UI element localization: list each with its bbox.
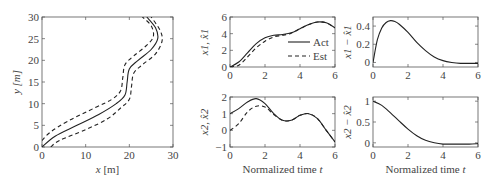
x-tick-label: 0	[370, 149, 376, 161]
chart-trajectory: 0102030051015202530x [m]y [m]	[10, 11, 179, 175]
y-tick-label: 10	[28, 98, 40, 110]
y-tick-label: 0	[365, 137, 371, 149]
chart-x2: 0246−1012Normalized time tx2, x̂2	[198, 91, 338, 175]
y-tick-label: 4	[222, 28, 228, 40]
series-error	[373, 21, 478, 64]
series-error	[373, 101, 478, 144]
series-left-bound	[42, 17, 154, 141]
y-tick-label: 0	[222, 124, 228, 136]
chart-x2-err: 024600.51Normalized time tx2 − x̂2	[341, 95, 481, 175]
figure: 0102030051015202530x [m]y [m]02460246x1,…	[0, 0, 495, 180]
y-tick-label: 0	[34, 141, 40, 153]
y-axis-label: x2, x̂2	[198, 108, 210, 136]
plot-frame	[230, 97, 335, 147]
x-tick-label: 10	[80, 149, 92, 161]
y-tick-label: 0.4	[356, 20, 370, 32]
x-tick-label: 4	[297, 149, 303, 161]
x-tick-label: 20	[124, 149, 136, 161]
x-tick-label: 4	[440, 69, 446, 81]
series-right-bound	[51, 17, 163, 147]
y-tick-label: 2	[222, 91, 228, 103]
y-axis-label: x1, x̂1	[198, 29, 210, 56]
plot-frame	[42, 17, 173, 147]
series-center	[42, 17, 158, 147]
x-axis-label: Normalized time t	[385, 163, 466, 175]
chart-x1: 02460246x1, x̂1ActEst	[198, 11, 338, 81]
x-axis-label: Normalized time t	[242, 163, 323, 175]
plot-frame	[373, 17, 478, 67]
x-tick-label: 0	[370, 69, 376, 81]
x-tick-label: 4	[440, 149, 446, 161]
y-tick-label: 1	[365, 95, 371, 107]
x-tick-label: 4	[297, 69, 303, 81]
y-tick-label: −1	[215, 141, 227, 153]
plot-frame	[373, 97, 478, 147]
y-tick-label: 30	[28, 11, 40, 23]
y-tick-label: 0.5	[356, 116, 370, 128]
y-tick-label: 2	[222, 44, 228, 56]
x-tick-label: 2	[405, 69, 411, 81]
x-tick-label: 6	[475, 149, 481, 161]
y-tick-label: 5	[34, 119, 40, 131]
y-tick-label: 6	[222, 11, 228, 23]
y-axis-label: x2 − x̂2	[341, 105, 353, 140]
x-tick-label: 0	[39, 149, 45, 161]
legend: ActEst	[288, 36, 329, 62]
y-tick-label: 20	[28, 54, 40, 66]
y-tick-label: 0	[222, 61, 228, 73]
legend-est: Est	[313, 50, 327, 62]
x-tick-label: 2	[262, 149, 268, 161]
x-tick-label: 6	[332, 149, 338, 161]
x-tick-label: 6	[332, 69, 338, 81]
y-tick-label: 1	[222, 108, 228, 120]
x-tick-label: 0	[227, 69, 233, 81]
x-axis-label: x [m]	[95, 163, 120, 175]
y-tick-label: 15	[28, 76, 40, 88]
y-axis-label: y [m]	[10, 70, 22, 95]
legend-act: Act	[313, 36, 329, 48]
x-tick-label: 30	[168, 149, 180, 161]
y-tick-label: 0.2	[356, 38, 370, 50]
x-tick-label: 0	[227, 149, 233, 161]
x-tick-label: 2	[405, 149, 411, 161]
chart-x1-err: 024600.20.4x1 − x̂1	[341, 17, 481, 81]
x-tick-label: 2	[262, 69, 268, 81]
x-tick-label: 6	[475, 69, 481, 81]
y-tick-label: 0	[365, 56, 371, 68]
y-tick-label: 25	[28, 33, 40, 45]
series-Est	[230, 106, 335, 142]
y-axis-label: x1 − x̂1	[341, 25, 353, 60]
